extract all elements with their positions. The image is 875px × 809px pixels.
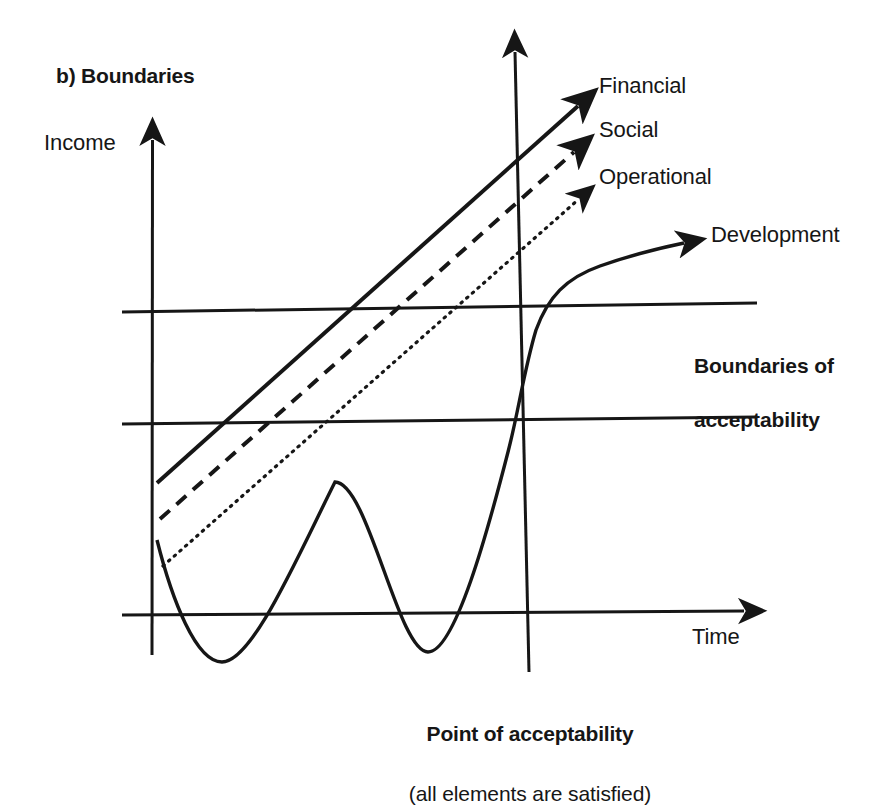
boundaries-of-acceptability-note: Boundaries of acceptability bbox=[671, 326, 834, 460]
series-label-operational: Operational bbox=[599, 165, 712, 190]
boundaries-note-line2: acceptability bbox=[694, 408, 820, 431]
operational-trend-line bbox=[163, 199, 579, 566]
series-label-financial: Financial bbox=[599, 74, 686, 99]
point-of-acceptability-subtitle: (all elements are satisfied) bbox=[330, 782, 730, 806]
page-title: b) Boundaries bbox=[56, 64, 195, 88]
lower-boundary-line bbox=[122, 417, 757, 424]
social-trend-line bbox=[160, 152, 574, 519]
series-label-social: Social bbox=[599, 118, 658, 143]
boundaries-note-line1: Boundaries of bbox=[694, 354, 834, 377]
x-axis-line bbox=[122, 611, 744, 615]
series-label-development: Development bbox=[711, 223, 840, 248]
y-axis-line bbox=[152, 140, 153, 655]
upper-boundary-line bbox=[122, 303, 757, 312]
y-axis-label: Income bbox=[44, 131, 116, 156]
x-axis-label: Time bbox=[692, 625, 740, 650]
point-of-acceptability-title: Point of acceptability bbox=[330, 722, 730, 746]
point-of-acceptability-caption: Point of acceptability (all elements are… bbox=[330, 686, 730, 809]
